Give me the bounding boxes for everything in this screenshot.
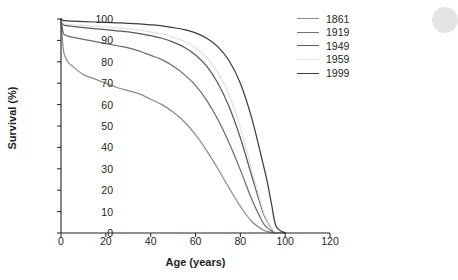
legend: 18611919194919591999 [297, 12, 349, 80]
y-tick-label-50: 50 [69, 121, 113, 132]
y-tick-label-20: 20 [69, 185, 113, 196]
y-tick-label-90: 90 [69, 35, 113, 46]
y-tick-label-70: 70 [69, 78, 113, 89]
y-tick-label-100: 100 [69, 14, 113, 25]
legend-item-1861[interactable]: 1861 [297, 12, 349, 26]
legend-item-1949[interactable]: 1949 [297, 39, 349, 53]
x-tick-label-80: 80 [220, 236, 260, 247]
legend-label-1999: 1999 [326, 68, 349, 79]
y-axis-title: Survival (%) [6, 58, 18, 178]
y-tick-label-30: 30 [69, 164, 113, 175]
legend-swatch-1999 [297, 73, 319, 74]
y-tick-label-80: 80 [69, 57, 113, 68]
y-tick-label-60: 60 [69, 100, 113, 111]
legend-label-1959: 1959 [326, 54, 349, 65]
legend-item-1999[interactable]: 1999 [297, 66, 349, 80]
legend-item-1959[interactable]: 1959 [297, 53, 349, 67]
legend-swatch-1959 [297, 59, 319, 60]
x-tick-label-120: 120 [310, 236, 350, 247]
x-tick-label-40: 40 [131, 236, 171, 247]
legend-item-1919[interactable]: 1919 [297, 26, 349, 40]
y-tick-label-40: 40 [69, 142, 113, 153]
legend-label-1949: 1949 [326, 41, 349, 52]
legend-label-1861: 1861 [326, 14, 349, 25]
x-tick-label-100: 100 [265, 236, 305, 247]
x-tick-label-0: 0 [41, 236, 81, 247]
legend-swatch-1919 [297, 32, 319, 33]
legend-label-1919: 1919 [326, 27, 349, 38]
legend-swatch-1949 [297, 45, 319, 46]
x-tick-label-20: 20 [86, 236, 126, 247]
corner-circle-artifact [432, 7, 458, 33]
legend-swatch-1861 [297, 18, 319, 19]
y-tick-label-10: 10 [69, 207, 113, 218]
x-tick-label-60: 60 [176, 236, 216, 247]
x-axis-title: Age (years) [61, 256, 330, 268]
